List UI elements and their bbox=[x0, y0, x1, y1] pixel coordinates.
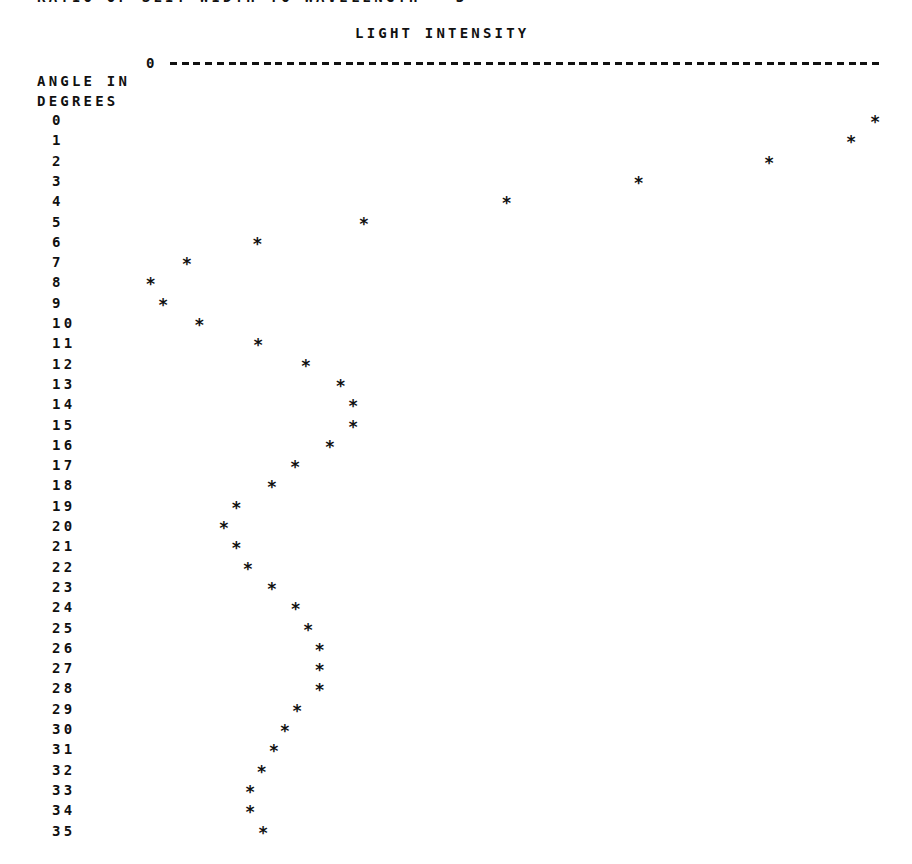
x-axis-dashed-line bbox=[170, 62, 880, 65]
data-point-star-icon: * bbox=[869, 114, 881, 130]
data-point-star-icon: * bbox=[314, 662, 326, 678]
data-point-star-icon: * bbox=[845, 134, 857, 150]
angle-label: 24 bbox=[52, 599, 75, 615]
angle-label: 12 bbox=[52, 356, 75, 372]
data-point-star-icon: * bbox=[266, 581, 278, 597]
data-point-star-icon: * bbox=[244, 804, 256, 820]
x-axis-title: LIGHT INTENSITY bbox=[355, 25, 529, 41]
data-point-star-icon: * bbox=[230, 540, 242, 556]
data-point-star-icon: * bbox=[324, 439, 336, 455]
data-point-star-icon: * bbox=[347, 419, 359, 435]
data-point-star-icon: * bbox=[193, 317, 205, 333]
angle-label: 15 bbox=[52, 417, 75, 433]
angle-label: 29 bbox=[52, 701, 75, 717]
angle-label: 19 bbox=[52, 498, 75, 514]
data-point-star-icon: * bbox=[314, 642, 326, 658]
angle-label: 3 bbox=[52, 173, 64, 189]
angle-label: 32 bbox=[52, 762, 75, 778]
data-point-star-icon: * bbox=[335, 378, 347, 394]
data-point-star-icon: * bbox=[289, 459, 301, 475]
angle-label: 22 bbox=[52, 559, 75, 575]
angle-label: 8 bbox=[52, 274, 64, 290]
angle-label: 34 bbox=[52, 802, 75, 818]
angle-label: 23 bbox=[52, 579, 75, 595]
data-point-star-icon: * bbox=[314, 682, 326, 698]
angle-label: 7 bbox=[52, 254, 64, 270]
angle-label: 35 bbox=[52, 823, 75, 839]
data-point-star-icon: * bbox=[358, 216, 370, 232]
angle-label: 14 bbox=[52, 396, 75, 412]
data-point-star-icon: * bbox=[290, 601, 302, 617]
y-axis-title-line1: ANGLE IN bbox=[37, 73, 130, 89]
angle-label: 10 bbox=[52, 315, 75, 331]
angle-label: 17 bbox=[52, 457, 75, 473]
data-point-star-icon: * bbox=[157, 297, 169, 313]
angle-label: 0 bbox=[52, 112, 64, 128]
data-point-star-icon: * bbox=[291, 703, 303, 719]
angle-label: 16 bbox=[52, 437, 75, 453]
data-point-star-icon: * bbox=[633, 175, 645, 191]
angle-label: 5 bbox=[52, 214, 64, 230]
angle-label: 11 bbox=[52, 335, 75, 351]
data-point-star-icon: * bbox=[181, 256, 193, 272]
data-point-star-icon: * bbox=[268, 743, 280, 759]
angle-label: 4 bbox=[52, 193, 64, 209]
angle-label: 30 bbox=[52, 721, 75, 737]
data-point-star-icon: * bbox=[230, 500, 242, 516]
data-point-star-icon: * bbox=[252, 337, 264, 353]
data-point-star-icon: * bbox=[257, 825, 269, 841]
angle-label: 18 bbox=[52, 477, 75, 493]
angle-label: 20 bbox=[52, 518, 75, 534]
data-point-star-icon: * bbox=[266, 479, 278, 495]
angle-label: 9 bbox=[52, 295, 64, 311]
angle-label: 27 bbox=[52, 660, 75, 676]
data-point-star-icon: * bbox=[218, 520, 230, 536]
data-point-star-icon: * bbox=[347, 398, 359, 414]
data-point-star-icon: * bbox=[256, 764, 268, 780]
data-point-star-icon: * bbox=[302, 622, 314, 638]
data-point-star-icon: * bbox=[242, 561, 254, 577]
data-point-star-icon: * bbox=[244, 784, 256, 800]
angle-label: 1 bbox=[52, 132, 64, 148]
angle-label: 2 bbox=[52, 153, 64, 169]
angle-label: 21 bbox=[52, 538, 75, 554]
data-point-star-icon: * bbox=[501, 195, 513, 211]
angle-label: 6 bbox=[52, 234, 64, 250]
chart-title: RATIO OF SLIT WIDTH TO WAVELENGTH = 3 bbox=[37, 0, 467, 5]
data-point-star-icon: * bbox=[763, 155, 775, 171]
angle-label: 28 bbox=[52, 680, 75, 696]
data-point-star-icon: * bbox=[145, 276, 157, 292]
angle-label: 25 bbox=[52, 620, 75, 636]
angle-label: 26 bbox=[52, 640, 75, 656]
x-axis-zero-label: 0 bbox=[146, 55, 158, 71]
angle-label: 31 bbox=[52, 741, 75, 757]
angle-label: 13 bbox=[52, 376, 75, 392]
y-axis-title-line2: DEGREES bbox=[37, 93, 118, 109]
data-point-star-icon: * bbox=[251, 236, 263, 252]
angle-label: 33 bbox=[52, 782, 75, 798]
data-point-star-icon: * bbox=[300, 358, 312, 374]
data-point-star-icon: * bbox=[279, 723, 291, 739]
